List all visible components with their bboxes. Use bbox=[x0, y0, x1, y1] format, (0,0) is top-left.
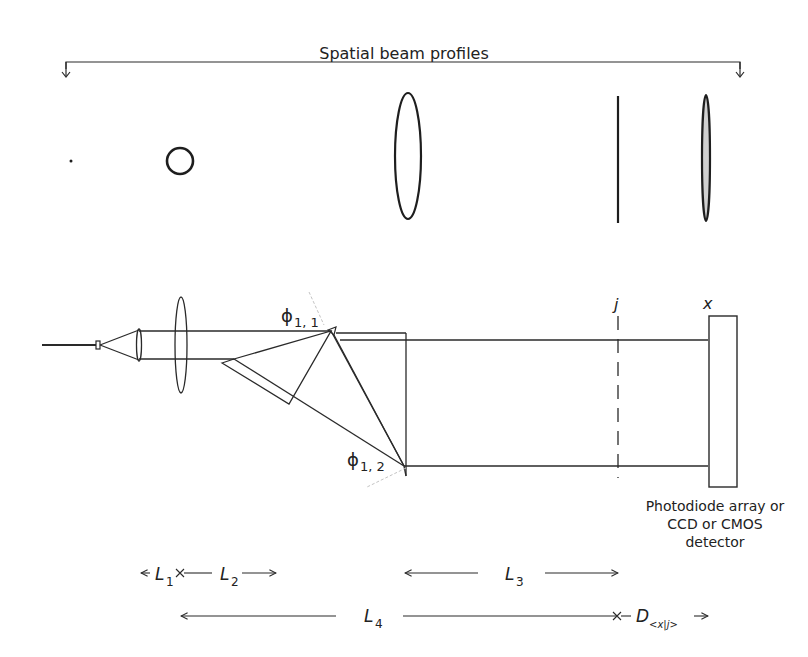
detector bbox=[709, 316, 737, 487]
svg-text:D: D bbox=[636, 606, 649, 626]
svg-text:4: 4 bbox=[375, 617, 383, 631]
svg-text:1: 1 bbox=[166, 575, 174, 589]
plane-j-label: j bbox=[612, 295, 619, 314]
dim-L1-label: L 1 bbox=[155, 564, 174, 589]
phi-1-1-label: ϕ 1, 1 bbox=[281, 305, 319, 330]
fiber-connector bbox=[96, 341, 100, 349]
beam-profiles bbox=[70, 93, 711, 223]
dimension-row-1 bbox=[141, 569, 618, 577]
dim-L2-label: L 2 bbox=[220, 564, 239, 589]
optical-diagram: ϕ 1, 1 ϕ 1, 2 j x L 1 L 2 L 3 bbox=[0, 0, 808, 657]
plane-x-label: x bbox=[702, 294, 713, 313]
optical-setup bbox=[42, 297, 737, 487]
dim-L3-label: L 3 bbox=[505, 564, 524, 589]
svg-text:1, 2: 1, 2 bbox=[360, 459, 385, 474]
svg-text:ϕ: ϕ bbox=[281, 305, 293, 326]
svg-text:1, 1: 1, 1 bbox=[294, 315, 319, 330]
svg-text:3: 3 bbox=[516, 575, 524, 589]
svg-text:L: L bbox=[364, 606, 373, 626]
svg-text:L: L bbox=[220, 564, 229, 584]
svg-text:L: L bbox=[505, 564, 514, 584]
svg-text:L: L bbox=[155, 564, 164, 584]
detector-label: Photodiode array or CCD or CMOS detector bbox=[640, 497, 790, 551]
profile-circle bbox=[167, 148, 193, 174]
profiles-bracket bbox=[62, 62, 744, 77]
profile-thin-ellipse bbox=[702, 95, 710, 221]
svg-text:ϕ: ϕ bbox=[347, 449, 359, 470]
prism-1 bbox=[222, 331, 331, 404]
phi-1-2-label: ϕ 1, 2 bbox=[347, 449, 385, 474]
profile-tall-ellipse bbox=[395, 93, 421, 219]
dim-L4-label: L 4 bbox=[364, 606, 383, 631]
profile-dot bbox=[70, 160, 73, 163]
dim-D-label: D <x|j> bbox=[636, 606, 678, 631]
cylindrical-lens bbox=[175, 297, 187, 393]
collimating-lens bbox=[137, 329, 142, 361]
svg-text:2: 2 bbox=[231, 575, 239, 589]
svg-text:<x|j>: <x|j> bbox=[649, 619, 678, 631]
dimension-row-2 bbox=[181, 612, 708, 620]
